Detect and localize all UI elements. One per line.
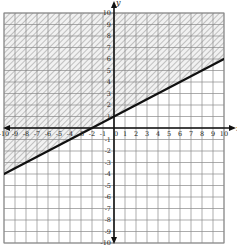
x-tick-label: 5 [167, 130, 171, 138]
x-tick-label: 4 [156, 130, 160, 138]
x-tick-label: -3 [78, 130, 84, 138]
y-tick-label: 5 [107, 67, 111, 75]
x-tick-label: 2 [134, 130, 138, 138]
y-tick-label: -10 [101, 239, 111, 247]
x-tick-label: -6 [45, 130, 51, 138]
y-tick-label: -3 [105, 159, 111, 167]
y-tick-label: -7 [105, 205, 111, 213]
y-axis-label: y [115, 0, 121, 7]
y-tick-label: 1 [107, 113, 111, 121]
x-tick-label: -9 [12, 130, 18, 138]
y-tick-label: -4 [105, 170, 111, 178]
y-tick-label: -1 [105, 136, 111, 144]
y-tick-label: 7 [107, 44, 111, 52]
x-tick-label: -7 [34, 130, 40, 138]
x-tick-label: 6 [178, 130, 182, 138]
y-tick-label: 9 [107, 21, 111, 29]
x-tick-label: 10 [220, 130, 228, 138]
y-tick-label: 4 [107, 78, 111, 86]
x-tick-label: -4 [67, 130, 73, 138]
y-tick-label: 2 [107, 101, 111, 109]
x-tick-label: -5 [56, 130, 62, 138]
x-tick-label: -8 [23, 130, 29, 138]
y-tick-label: -2 [105, 147, 111, 155]
x-tick-label: 8 [200, 130, 204, 138]
x-tick-label: 9 [211, 130, 215, 138]
x-tick-label: 0 [114, 130, 118, 138]
y-tick-label: -5 [105, 182, 111, 190]
x-axis-arrow-right-icon [229, 125, 236, 131]
coordinate-plane: -10-9-8-7-6-5-4-3-2-1012345678910-10-9-8… [0, 0, 237, 247]
y-tick-label: -6 [105, 193, 111, 201]
x-tick-label: 3 [145, 130, 149, 138]
x-tick-label: 7 [189, 130, 193, 138]
y-tick-label: -8 [105, 216, 111, 224]
y-tick-label: 6 [107, 55, 111, 63]
y-tick-label: -9 [105, 228, 111, 236]
x-axis-label: x [236, 124, 237, 133]
x-tick-label: 1 [123, 130, 127, 138]
x-tick-label: -2 [89, 130, 95, 138]
x-tick-label: -10 [0, 130, 9, 138]
y-tick-label: 10 [103, 9, 111, 17]
y-tick-label: 8 [107, 32, 111, 40]
y-tick-label: 3 [107, 90, 111, 98]
